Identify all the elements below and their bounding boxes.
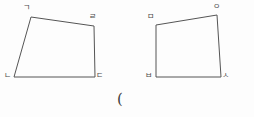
vertex-label-nieun: ㄴ (4, 72, 11, 80)
vertex-label-mieum: ㅁ (147, 13, 154, 21)
geometry-figure-root: ㄱ ㄹ ㄷ ㄴ ㅁ ㅇ ㅅ ㅂ ( (0, 0, 254, 117)
vertex-label-digeut: ㄷ (96, 72, 103, 80)
vertex-label-ieung: ㅇ (213, 3, 220, 11)
quadrilateral-right-outline (156, 15, 221, 77)
quadrilateral-right (156, 15, 221, 77)
vertex-label-siot: ㅅ (222, 72, 229, 80)
figure-canvas (0, 0, 254, 117)
vertex-label-giyeok: ㄱ (23, 4, 30, 12)
vertex-label-bieup: ㅂ (145, 72, 152, 80)
quadrilateral-left-outline (14, 17, 95, 77)
vertex-label-rieul: ㄹ (89, 13, 96, 21)
caption-parenthesis: ( (117, 92, 123, 107)
quadrilateral-left (14, 17, 95, 77)
